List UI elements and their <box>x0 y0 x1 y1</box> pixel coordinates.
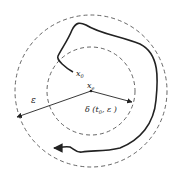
delta-label: δ (t0, ε ) <box>85 105 117 115</box>
equilibrium-label: xe <box>87 81 95 91</box>
epsilon-radius-arrow <box>17 91 91 117</box>
trajectory-curve <box>54 23 157 152</box>
epsilon-label: ε <box>31 95 36 105</box>
start-point-label: x0 <box>76 69 85 79</box>
delta-radius-arrow <box>91 91 132 102</box>
stability-diagram: xe x0 ε δ (t0, ε ) <box>0 0 177 182</box>
